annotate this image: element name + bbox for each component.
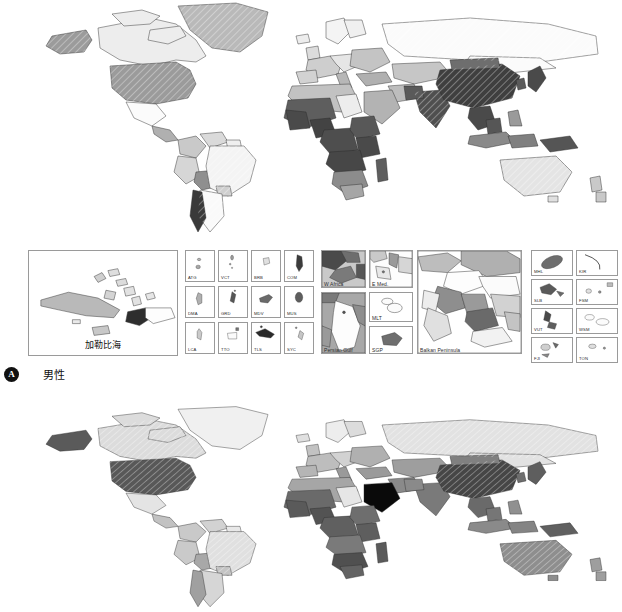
inset-caribbean-label: 加勒比海 bbox=[29, 338, 177, 351]
inset-w-africa[interactable]: W Africa bbox=[321, 250, 366, 288]
inset-ATG-label: ATG bbox=[188, 275, 197, 281]
inset-MLT[interactable]: MLT bbox=[369, 292, 413, 322]
inset-SLB-label: SLB bbox=[534, 298, 542, 304]
inset-MUS-label: MUS bbox=[287, 311, 297, 317]
inset-COM-label: COM bbox=[287, 275, 297, 281]
world-map-canvas-a bbox=[0, 0, 622, 238]
inset-SYC-label: SYC bbox=[287, 347, 296, 353]
inset-FJI[interactable]: FJI bbox=[531, 337, 573, 363]
inset-GRD-label: GRD bbox=[221, 311, 231, 317]
inset-DMA-label: DMA bbox=[188, 311, 198, 317]
inset-VUT-label: VUT bbox=[534, 327, 543, 333]
inset-FJI-label: FJI bbox=[534, 356, 540, 362]
inset-TTO-label: TTO bbox=[221, 347, 230, 353]
inset-MDV-label: MDV bbox=[254, 311, 264, 317]
inset-MHL[interactable]: MHL bbox=[531, 250, 573, 276]
world-map-panel-b bbox=[0, 404, 622, 612]
inset-LCA-label: LCA bbox=[188, 347, 196, 353]
inset-ATG[interactable]: ATG bbox=[185, 250, 215, 282]
inset-BRB[interactable]: BRB bbox=[251, 250, 281, 282]
inset-KIR-label: KIR bbox=[579, 269, 586, 275]
inset-FSM[interactable]: FSM bbox=[576, 279, 618, 305]
panel-tag-a: A 男性 bbox=[4, 366, 65, 382]
inset-w-africa-label: W Africa bbox=[324, 281, 343, 287]
inset-SGP-label: SGP bbox=[372, 347, 383, 353]
inset-WSM[interactable]: WSM bbox=[576, 308, 618, 334]
inset-KIR[interactable]: KIR bbox=[576, 250, 618, 276]
inset-FSM-label: FSM bbox=[579, 298, 588, 304]
inset-SGP[interactable]: SGP bbox=[369, 326, 413, 354]
panel-tag-a-circle: A bbox=[4, 367, 19, 382]
inset-MUS[interactable]: MUS bbox=[284, 286, 314, 318]
inset-SYC[interactable]: SYC bbox=[284, 322, 314, 354]
inset-balkans-label: Balkan Peninsula bbox=[420, 347, 460, 353]
inset-caribbean[interactable]: 加勒比海 bbox=[28, 250, 178, 356]
inset-DMA[interactable]: DMA bbox=[185, 286, 215, 318]
figure-root: 加勒比海 ATG VCT BRB COM bbox=[0, 0, 622, 612]
inset-BRB-label: BRB bbox=[254, 275, 263, 281]
inset-persian-gulf[interactable]: Persian Gulf bbox=[321, 292, 366, 354]
inset-e-med-label: E Med. bbox=[372, 281, 388, 287]
inset-TON-label: TON bbox=[579, 356, 588, 362]
inset-MDV[interactable]: MDV bbox=[251, 286, 281, 318]
inset-MHL-label: MHL bbox=[534, 269, 543, 275]
inset-persian-gulf-label: Persian Gulf bbox=[324, 347, 353, 353]
world-map-canvas-b bbox=[0, 404, 622, 612]
inset-TLS[interactable]: TLS bbox=[251, 322, 281, 354]
inset-TTO[interactable]: TTO bbox=[218, 322, 248, 354]
inset-TON[interactable]: TON bbox=[576, 337, 618, 363]
inset-WSM-label: WSM bbox=[579, 327, 590, 333]
inset-LCA[interactable]: LCA bbox=[185, 322, 215, 354]
inset-strip: 加勒比海 ATG VCT BRB COM bbox=[0, 242, 622, 364]
inset-MLT-label: MLT bbox=[372, 315, 382, 321]
inset-e-med[interactable]: E Med. bbox=[369, 250, 413, 288]
inset-VUT[interactable]: VUT bbox=[531, 308, 573, 334]
inset-VCT-label: VCT bbox=[221, 275, 230, 281]
inset-COM[interactable]: COM bbox=[284, 250, 314, 282]
inset-VCT[interactable]: VCT bbox=[218, 250, 248, 282]
world-map-panel-a bbox=[0, 0, 622, 238]
inset-balkans[interactable]: Balkan Peninsula bbox=[417, 250, 522, 354]
panel-tag-a-title: 男性 bbox=[43, 366, 65, 382]
inset-SLB[interactable]: SLB bbox=[531, 279, 573, 305]
inset-GRD[interactable]: GRD bbox=[218, 286, 248, 318]
inset-TLS-label: TLS bbox=[254, 347, 262, 353]
